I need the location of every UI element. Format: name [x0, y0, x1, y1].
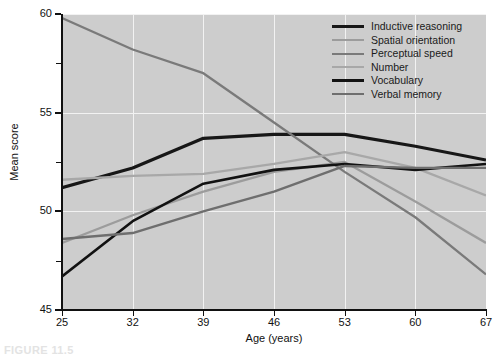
x-tick-label: 67: [471, 316, 498, 328]
y-tick-minor: [56, 63, 61, 64]
y-tick-label: 45: [30, 304, 52, 315]
y-tick-major: [55, 112, 61, 114]
y-tick-minor: [56, 162, 61, 163]
legend-label: Vocabulary: [371, 74, 423, 88]
series-line: [62, 134, 486, 187]
legend-swatch-icon: [332, 39, 364, 41]
figure-caption: FIGURE 11.5: [4, 344, 74, 356]
legend-item: Vocabulary: [332, 74, 492, 88]
y-axis-tick-labels: 45505560: [22, 0, 52, 352]
legend-label: Inductive reasoning: [371, 20, 462, 34]
legend-swatch-icon: [332, 93, 364, 95]
y-tick-major: [55, 210, 61, 212]
legend-item: Number: [332, 61, 492, 75]
x-tick-label: 60: [400, 316, 430, 328]
x-axis-title: Age (years): [62, 332, 486, 344]
chart-legend: Inductive reasoningSpatial orientationPe…: [332, 20, 492, 101]
x-tick-label: 32: [118, 316, 148, 328]
legend-swatch-icon: [332, 66, 364, 68]
series-line: [62, 164, 486, 276]
x-tick-label: 46: [259, 316, 289, 328]
legend-item: Verbal memory: [332, 88, 492, 102]
y-axis-title: Mean score: [8, 112, 20, 192]
x-tick-label: 25: [47, 316, 77, 328]
legend-label: Number: [371, 61, 408, 75]
legend-swatch-icon: [332, 25, 364, 28]
series-line: [62, 152, 486, 195]
legend-label: Spatial orientation: [371, 34, 455, 48]
legend-label: Verbal memory: [371, 88, 442, 102]
y-tick-major: [55, 13, 61, 15]
y-axis-line: [61, 14, 63, 311]
legend-item: Inductive reasoning: [332, 20, 492, 34]
legend-item: Perceptual speed: [332, 47, 492, 61]
x-tick-label: 53: [330, 316, 360, 328]
legend-swatch-icon: [332, 79, 364, 82]
y-tick-minor: [56, 261, 61, 262]
y-tick-label: 60: [30, 8, 52, 19]
y-tick-label: 50: [30, 205, 52, 216]
legend-item: Spatial orientation: [332, 34, 492, 48]
legend-label: Perceptual speed: [371, 47, 453, 61]
x-tick-label: 39: [188, 316, 218, 328]
legend-swatch-icon: [332, 53, 364, 55]
series-line: [62, 162, 486, 243]
y-tick-major: [55, 309, 61, 311]
y-tick-label: 55: [30, 107, 52, 118]
